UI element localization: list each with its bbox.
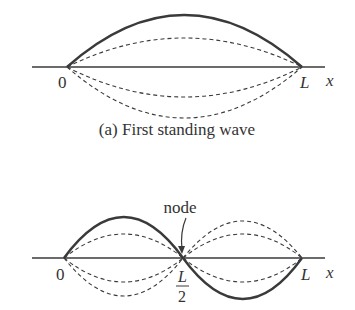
x-axis-label-bottom: x [325,263,334,282]
node-label: node [163,198,196,217]
origin-label-bottom: 0 [56,265,65,284]
dashed-right-upper-2 [183,234,302,258]
dashed-left-lower-1 [64,258,183,282]
second-standing-wave-panel: node 0 L 2 L x [32,198,334,305]
length-label-bottom: L [300,265,310,284]
x-axis-label-top: x [325,71,334,90]
first-standing-wave-panel: 0 L x (a) First standing wave [32,15,334,139]
caption-first-standing-wave: (a) First standing wave [99,120,255,139]
half-length-numerator: L [177,268,187,285]
dashed-left-lower-2 [64,258,183,296]
half-length-denominator: 2 [178,288,186,305]
node-arrow [182,218,187,250]
length-label-top: L [299,73,309,92]
solid-wave-curve [67,15,302,67]
dashed-right-upper-1 [183,221,302,258]
origin-label-top: 0 [58,73,67,92]
standing-waves-diagram: 0 L x (a) First standing wave node 0 L 2… [0,0,355,310]
dashed-wave-curve-upper [67,38,302,67]
dashed-wave-curve-lower-2 [67,67,302,118]
